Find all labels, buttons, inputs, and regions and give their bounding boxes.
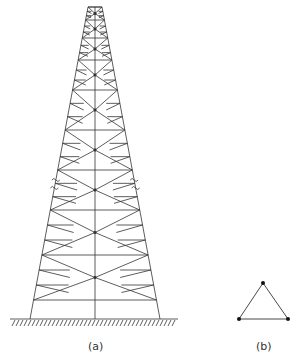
label-b: (b) (256, 340, 272, 353)
label-a: (a) (88, 340, 103, 353)
node-left (237, 317, 241, 321)
node-top (261, 281, 265, 285)
cross-section-panel-b (237, 281, 290, 321)
figure (0, 0, 300, 364)
tower-panel-a (30, 7, 160, 319)
node-right (286, 317, 290, 321)
ground-hatch (10, 319, 178, 326)
